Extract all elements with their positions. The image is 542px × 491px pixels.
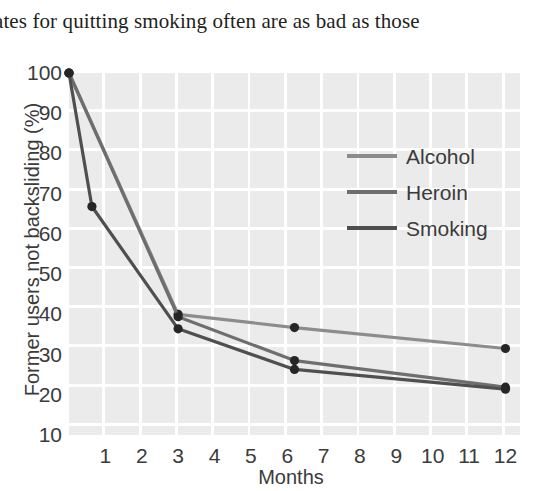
legend-label: Heroin xyxy=(406,182,468,203)
figure-caption-text: ates for quitting smoking often are as b… xyxy=(0,0,542,42)
data-point-marker xyxy=(87,202,96,211)
data-point-marker xyxy=(64,68,73,77)
x-tick-label: 1 xyxy=(85,444,125,468)
legend-item-heroin[interactable]: Heroin xyxy=(347,174,517,210)
data-point-marker xyxy=(290,323,299,332)
y-axis-label: Former users not backsliding (%) xyxy=(21,70,44,430)
x-tick-label: 8 xyxy=(340,444,380,468)
series-layer xyxy=(69,73,520,435)
data-point-marker xyxy=(501,344,510,353)
data-point-marker xyxy=(174,324,183,333)
x-axis-label: Months xyxy=(0,466,542,489)
legend-line-swatch xyxy=(347,190,397,194)
legend-label: Smoking xyxy=(406,218,488,239)
data-point-marker xyxy=(290,365,299,374)
x-tick-label: 2 xyxy=(122,444,162,468)
x-tick-label: 6 xyxy=(267,444,307,468)
chart-legend: AlcoholHeroinSmoking xyxy=(347,138,517,246)
legend-item-smoking[interactable]: Smoking xyxy=(347,210,517,246)
data-point-marker xyxy=(174,312,183,321)
legend-label: Alcohol xyxy=(406,146,475,167)
x-tick-label: 5 xyxy=(231,444,271,468)
legend-line-swatch xyxy=(347,154,397,158)
legend-item-alcohol[interactable]: Alcohol xyxy=(347,138,517,174)
x-tick-label: 7 xyxy=(304,444,344,468)
x-tick-label: 11 xyxy=(449,444,489,468)
x-tick-label: 10 xyxy=(413,444,453,468)
x-tick-label: 12 xyxy=(485,444,525,468)
data-point-marker xyxy=(290,356,299,365)
x-tick-label: 3 xyxy=(158,444,198,468)
x-tick-label: 4 xyxy=(194,444,234,468)
data-point-marker xyxy=(501,385,510,394)
chart-figure: 102030405060708090100 123456789101112 Fo… xyxy=(0,42,542,491)
x-tick-label: 9 xyxy=(376,444,416,468)
legend-line-swatch xyxy=(347,226,397,230)
